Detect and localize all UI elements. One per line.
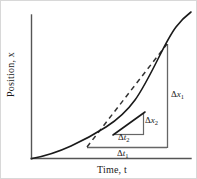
delta-x1-label: Δx1 (171, 89, 184, 100)
delta-x2-label: Δx2 (145, 115, 158, 126)
y-axis-label-prefix: Position, (5, 57, 16, 97)
delta-x2-subscript: 2 (155, 119, 158, 126)
x-axis-label-variable: t (124, 164, 127, 175)
delta-x1-subscript: 1 (181, 93, 184, 100)
y-axis-label-variable: x (5, 52, 16, 57)
delta-t2-subscript: 2 (126, 136, 129, 143)
y-axis-label: Position, x (5, 43, 16, 107)
delta-t1-label: Δt1 (117, 148, 129, 159)
position-time-figure: Position, x Time, t Δx1 Δx2 Δt1 Δt2 (0, 0, 197, 179)
delta-t1-subscript: 1 (125, 152, 128, 159)
plot-canvas (1, 1, 197, 179)
x-axis-label: Time, t (67, 164, 157, 175)
delta-t2-label: Δt2 (118, 132, 130, 143)
x-axis-label-prefix: Time, (97, 164, 124, 175)
